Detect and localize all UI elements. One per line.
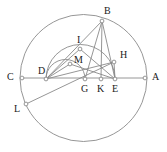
point-label-C: C xyxy=(7,72,14,82)
point-marker-M[interactable] xyxy=(68,62,72,66)
point-label-L: L xyxy=(14,104,20,114)
point-label-H: H xyxy=(120,50,127,60)
point-marker-E[interactable] xyxy=(113,77,117,81)
point-label-E: E xyxy=(112,84,118,94)
diagram-canvas xyxy=(0,0,167,152)
point-marker-I[interactable] xyxy=(78,47,82,51)
segment-BE xyxy=(102,21,115,79)
point-label-I: I xyxy=(77,35,80,45)
point-marker-H[interactable] xyxy=(112,60,116,64)
point-marker-L[interactable] xyxy=(24,102,28,106)
segment-BK xyxy=(101,21,102,79)
point-marker-G[interactable] xyxy=(83,77,87,81)
point-marker-K[interactable] xyxy=(99,77,103,81)
point-marker-C[interactable] xyxy=(20,76,24,80)
point-label-M: M xyxy=(74,55,83,65)
point-label-D: D xyxy=(38,66,45,76)
point-label-K: K xyxy=(97,84,104,94)
point-marker-A[interactable] xyxy=(143,76,147,80)
point-marker-D[interactable] xyxy=(44,77,48,81)
point-label-B: B xyxy=(104,6,111,16)
point-marker-B[interactable] xyxy=(100,19,104,23)
point-label-G: G xyxy=(81,84,88,94)
geometry-figure: BIHMCDAGKEL xyxy=(0,0,167,152)
point-label-A: A xyxy=(152,72,159,82)
